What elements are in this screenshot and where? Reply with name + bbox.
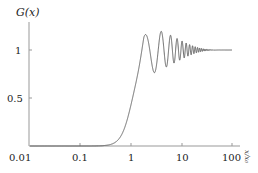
x-tick-100: 100 [222, 152, 241, 163]
y-tick-1: 1 [15, 45, 21, 56]
x-axis-label: x/x₀ [243, 150, 251, 163]
chart: G(x) 1 0.5 0.01 0.1 1 10 100 x/x₀ [0, 0, 258, 173]
data-line [30, 31, 232, 146]
x-tick-10: 10 [176, 152, 189, 163]
x-tick-0.1: 0.1 [72, 152, 88, 163]
y-tick-0.5: 0.5 [7, 93, 23, 104]
y-axis-label: G(x) [16, 6, 40, 19]
x-tick-0.01: 0.01 [9, 152, 31, 163]
y-ticks: 1 0.5 [7, 45, 32, 104]
x-tick-1: 1 [128, 152, 134, 163]
